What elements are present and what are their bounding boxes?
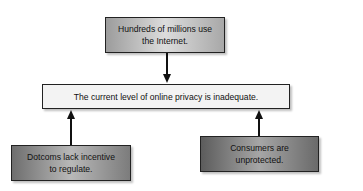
node-main-claim: The current level of online privacy is i… — [42, 84, 290, 109]
node-dotcoms: Dotcoms lack incentive to regulate. — [11, 145, 131, 181]
node-text-line: to regulate. — [49, 164, 92, 174]
connector-right-center — [258, 118, 260, 136]
node-text-line: Hundreds of millions use — [118, 24, 212, 34]
arrow-up-icon — [67, 110, 75, 119]
node-text-line: Consumers are — [230, 143, 289, 153]
node-text: The current level of online privacy is i… — [74, 91, 258, 103]
connector-left-center — [70, 118, 72, 145]
arrow-up-icon — [255, 110, 263, 119]
connector-top-center — [166, 53, 168, 75]
node-text-line: the Internet. — [142, 36, 188, 46]
node-consumers: Consumers are unprotected. — [200, 136, 319, 172]
arrow-down-icon — [163, 74, 171, 83]
node-text-line: Dotcoms lack incentive — [27, 152, 115, 162]
node-text-line: unprotected. — [236, 155, 284, 165]
node-internet-users: Hundreds of millions use the Internet. — [105, 17, 225, 53]
